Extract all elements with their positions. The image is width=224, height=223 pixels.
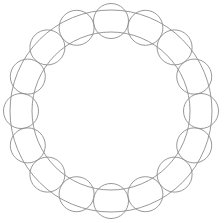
ring-of-circles-diagram bbox=[0, 0, 224, 223]
